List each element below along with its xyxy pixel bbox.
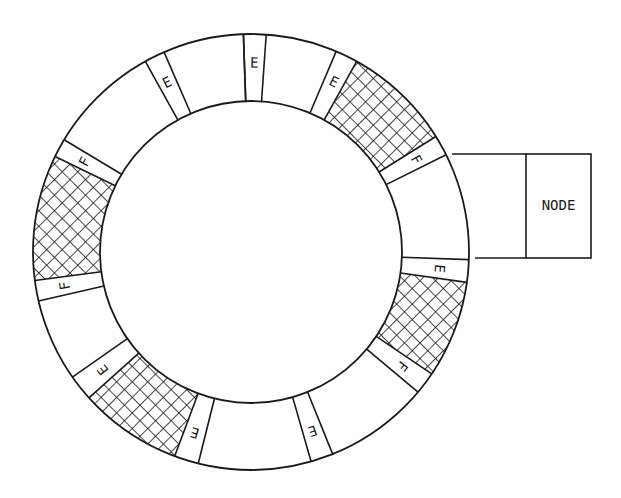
segment-label-f: F [56,280,73,291]
segment-divider [402,257,469,259]
segment-label-e: E [160,73,175,91]
segment-label-e: E [306,422,319,440]
segment-label-e: E [431,264,448,274]
hatched-segment [376,273,467,374]
ring-network-diagram: EEFEFEEEFFE NODE [0,0,621,498]
segment-label-f: F [407,152,425,167]
inner-ring [100,101,402,403]
segment-divider [145,61,177,120]
segment-divider [262,35,267,102]
node-attachment: NODE [452,154,591,258]
segment-label-e: E [327,73,342,91]
segment-label-e: E [250,54,259,70]
segment-divider [243,34,245,101]
segment-label-e: E [94,362,112,379]
segment-divider [308,392,333,454]
segment-label-f: F [393,358,411,374]
segment-label-e: E [188,424,201,442]
node-label: NODE [542,197,576,213]
